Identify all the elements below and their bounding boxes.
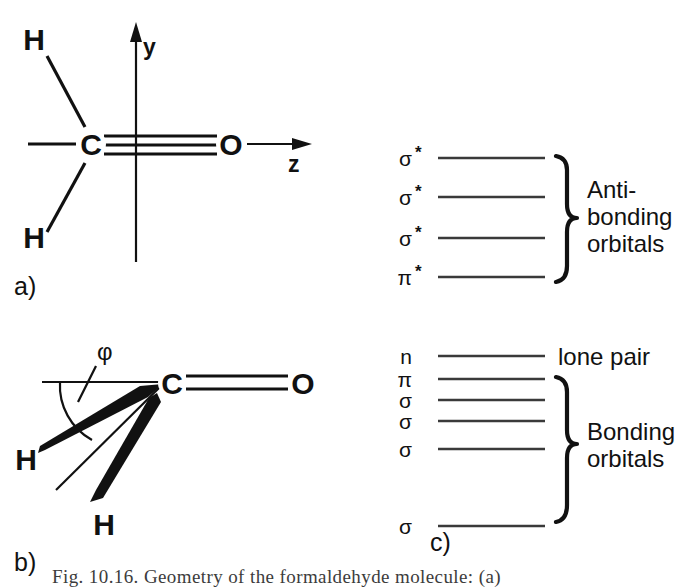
bonding-group-label-line2: orbitals	[587, 445, 664, 472]
level-star: *	[415, 143, 422, 162]
panel-a-planar-formaldehyde: y z C O H H a)	[0, 0, 340, 300]
bonding-group-label-line1: Bonding	[587, 418, 675, 445]
level-star: *	[415, 223, 422, 242]
panel-b-pyramidal-formaldehyde: φ C O H H b)	[0, 290, 340, 580]
antibonding-brace	[556, 156, 577, 282]
figure-caption-strip: Fig. 10.16. Geometry of the formaldehyde…	[0, 566, 681, 588]
level-row: π *	[398, 262, 546, 289]
level-row: σ *	[399, 223, 545, 250]
level-row: σ *	[399, 143, 545, 170]
y-axis-label: y	[143, 34, 156, 60]
level-symbol: σ	[399, 186, 412, 209]
panel-c-tag: c)	[430, 528, 451, 556]
level-row: σ	[399, 438, 545, 461]
antibonding-level-group: σ * σ * σ * π *	[398, 143, 546, 289]
level-symbol: σ	[399, 227, 412, 250]
atom-carbon: C	[80, 128, 102, 161]
level-row: π	[398, 368, 546, 391]
level-symbol: σ	[399, 389, 412, 412]
level-symbol: σ	[399, 438, 412, 461]
level-symbol: σ	[399, 410, 412, 433]
panel-a-atom-labels: C O H H	[23, 23, 246, 254]
level-symbol: π	[398, 368, 413, 391]
lone-pair-annotation: lone pair	[558, 343, 650, 370]
antibonding-group-label-line3: orbitals	[587, 230, 664, 257]
atom-hydrogen-wedge-left: H	[15, 443, 37, 476]
level-symbol: σ	[399, 147, 412, 170]
atom-hydrogen-upper: H	[23, 23, 45, 56]
z-axis-label: z	[288, 151, 300, 177]
bonding-level-group: π σ σ σ σ	[398, 368, 546, 538]
nonbonding-level-group: n lone pair	[400, 343, 650, 370]
figure-caption-clipped: Fig. 10.16. Geometry of the formaldehyde…	[52, 566, 501, 588]
level-symbol-n: n	[400, 345, 412, 368]
level-star: *	[415, 182, 422, 201]
atom-hydrogen-wedge-lower: H	[93, 508, 115, 541]
bond-c-h-lower	[47, 163, 85, 232]
level-star: *	[415, 262, 422, 281]
phi-leader-line	[78, 366, 96, 402]
level-symbol: σ	[399, 515, 412, 538]
z-axis-arrowhead	[292, 138, 312, 150]
y-axis-arrowhead	[130, 22, 142, 42]
level-row: σ	[399, 515, 545, 538]
level-row: σ *	[399, 182, 545, 209]
antibonding-group-label-line1: Anti-	[587, 176, 636, 203]
wedge-bond-h-lower	[90, 393, 161, 502]
antibonding-group-label-line2: bonding	[587, 203, 672, 230]
atom-hydrogen-lower: H	[23, 221, 45, 254]
bonding-brace	[556, 377, 577, 522]
atom-carbon-b: C	[161, 367, 183, 400]
figure-root: y z C O H H a) φ	[0, 0, 681, 588]
atom-oxygen-b: O	[291, 367, 314, 400]
level-symbol: π	[398, 266, 413, 289]
bond-c-h-upper	[47, 56, 85, 127]
atom-oxygen: O	[219, 128, 242, 161]
phi-angle-label: φ	[97, 338, 113, 365]
level-row: σ	[399, 410, 545, 433]
panel-c-molecular-orbital-diagram: σ * σ * σ * π * Anti- bonding	[340, 120, 681, 560]
level-row: σ	[399, 389, 545, 412]
